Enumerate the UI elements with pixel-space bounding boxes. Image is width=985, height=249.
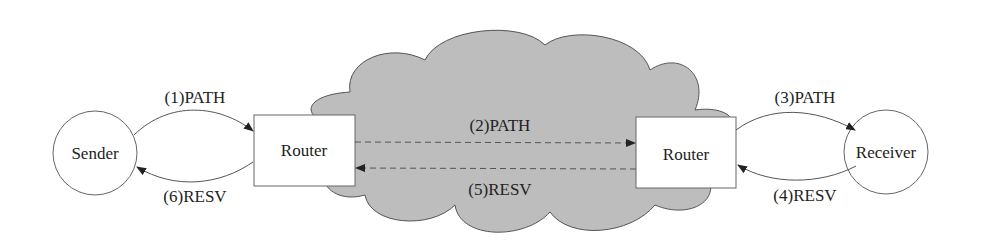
label-4-resv: (4)RESV [773, 186, 837, 205]
arrow-4-resv [738, 165, 856, 180]
arrow-3-path [736, 112, 855, 130]
sender-node: Sender [53, 111, 137, 195]
router-right-label: Router [663, 145, 710, 164]
router-left-node: Router [254, 115, 355, 186]
label-3-path: (3)PATH [775, 88, 836, 107]
label-6-resv: (6)RESV [163, 187, 227, 206]
receiver-node: Receiver [844, 110, 928, 194]
rsvp-diagram: Sender Router Router Receiver (1)PATH (6… [0, 0, 985, 249]
label-1-path: (1)PATH [165, 88, 226, 107]
router-right-node: Router [636, 117, 736, 188]
label-5-resv: (5)RESV [468, 180, 532, 199]
arrow-6-resv [137, 162, 253, 182]
receiver-label: Receiver [856, 143, 917, 162]
router-left-label: Router [281, 141, 328, 160]
label-2-path: (2)PATH [470, 116, 531, 135]
arrow-1-path [134, 110, 253, 135]
sender-label: Sender [71, 144, 119, 163]
